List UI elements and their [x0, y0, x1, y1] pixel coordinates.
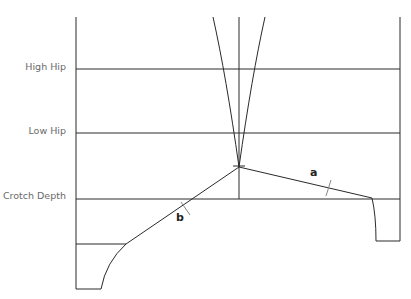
segment-b [126, 167, 239, 244]
segment-b-label: b [176, 211, 184, 224]
right-notch [372, 198, 400, 241]
low-hip-label: Low Hip [2, 125, 66, 136]
right-dart-curve [239, 17, 265, 167]
segment-a [239, 167, 372, 198]
crotch-depth-label: Crotch Depth [2, 190, 66, 201]
crotch-curve [101, 244, 126, 289]
segment-a-label: a [310, 166, 317, 179]
high-hip-label: High Hip [2, 61, 66, 72]
pattern-diagram [0, 0, 411, 299]
left-dart-curve [213, 17, 239, 167]
